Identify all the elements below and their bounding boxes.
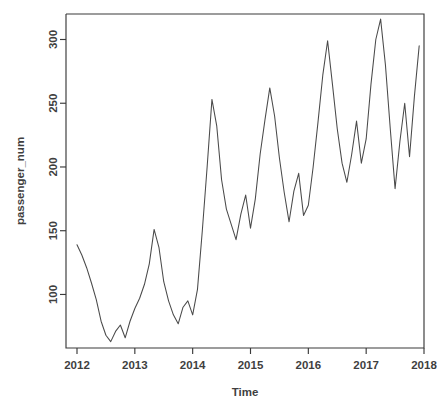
y-axis-title: passenger_num xyxy=(14,137,26,225)
y-tick-label: 300 xyxy=(47,30,59,49)
x-tick-label: 2018 xyxy=(411,359,437,371)
x-tick-label: 2016 xyxy=(296,359,322,371)
y-tick-label: 250 xyxy=(47,94,59,113)
x-tick-label: 2014 xyxy=(180,359,206,371)
x-tick-label: 2017 xyxy=(353,359,379,371)
line-chart: 100150200250300 201220132014201520162017… xyxy=(0,0,447,416)
y-tick-label: 150 xyxy=(47,221,59,240)
series-line-passenger-num xyxy=(77,19,419,342)
x-tick-label: 2015 xyxy=(238,359,264,371)
chart-container: 100150200250300 201220132014201520162017… xyxy=(0,0,447,416)
y-tick-label: 100 xyxy=(47,285,59,304)
x-axis: 2012201320142015201620172018 xyxy=(64,348,437,371)
x-axis-title: Time xyxy=(232,386,259,398)
x-tick-label: 2013 xyxy=(122,359,148,371)
y-axis: 100150200250300 xyxy=(47,30,66,304)
plot-frame xyxy=(66,14,424,348)
x-tick-label: 2012 xyxy=(64,359,90,371)
y-tick-label: 200 xyxy=(47,157,59,176)
